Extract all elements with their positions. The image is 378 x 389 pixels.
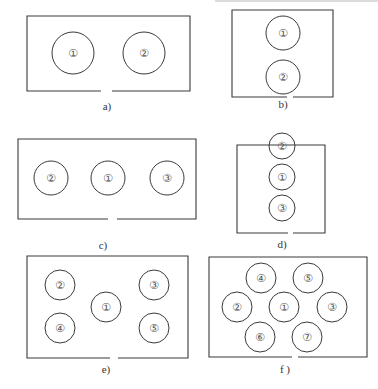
item-circle: ② [222, 292, 252, 322]
item-circle: ⑥ [245, 322, 275, 352]
item-circle: ④ [246, 263, 276, 293]
enclosure-box [237, 145, 325, 233]
item-circle: ⑤ [293, 263, 323, 293]
circle-number: ③ [162, 172, 172, 185]
item-circle: ① [269, 292, 299, 322]
panel-f: ④⑤②①③⑥⑦f ) [209, 257, 367, 376]
item-circle: ③ [317, 292, 347, 322]
circle-number: ⑦ [302, 331, 312, 344]
circle-number: ① [278, 27, 288, 40]
circle-number: ① [101, 301, 111, 314]
panel-label: d) [277, 238, 287, 251]
circle-number: ③ [277, 202, 287, 215]
panel-label: e) [102, 363, 111, 376]
item-circle: ② [34, 161, 68, 195]
circle-number: ② [232, 301, 242, 314]
circle-number: ② [139, 47, 149, 60]
layout-diagram: ①②a)①②b)②①③c)②①③d)②③①④⑤e)④⑤②①③⑥⑦f ) [0, 0, 378, 389]
item-circle: ① [266, 16, 300, 50]
panel-c: ②①③c) [18, 139, 196, 252]
panel-e: ②③①④⑤e) [27, 256, 188, 376]
circle-number: ② [46, 172, 56, 185]
panel-label: f ) [280, 363, 290, 376]
circle-number: ② [278, 71, 288, 84]
circle-number: ① [279, 301, 289, 314]
panel-a: ①②a) [27, 16, 190, 113]
circle-number: ④ [55, 322, 65, 335]
circle-number: ④ [256, 272, 266, 285]
circle-number: ⑥ [255, 331, 265, 344]
item-circle: ⑦ [292, 322, 322, 352]
item-circle: ① [269, 164, 295, 190]
item-circle: ① [91, 161, 125, 195]
circle-number: ③ [327, 301, 337, 314]
circle-number: ⑤ [149, 322, 159, 335]
panel-d: ②①③d) [237, 133, 325, 251]
item-circle: ① [91, 292, 121, 322]
circle-number: ① [277, 171, 287, 184]
enclosure-box [27, 16, 190, 91]
panel-label: a) [103, 100, 112, 113]
circle-number: ① [68, 47, 78, 60]
item-circle: ③ [139, 270, 169, 300]
item-circle: ⑤ [139, 313, 169, 343]
item-circle: ② [123, 32, 165, 74]
panel-b: ①②b) [232, 10, 333, 111]
item-circle: ② [269, 133, 295, 159]
panel-label: c) [99, 239, 108, 252]
item-circle: ③ [269, 195, 295, 221]
circle-number: ③ [149, 279, 159, 292]
circle-number: ① [103, 172, 113, 185]
item-circle: ② [45, 270, 75, 300]
circle-number: ② [55, 279, 65, 292]
item-circle: ③ [150, 161, 184, 195]
circle-number: ② [277, 140, 287, 153]
item-circle: ② [266, 60, 300, 94]
item-circle: ① [52, 32, 94, 74]
panel-label: b) [278, 98, 288, 111]
cropped-text-strip [215, 0, 378, 2]
item-circle: ④ [45, 313, 75, 343]
circle-number: ⑤ [303, 272, 313, 285]
